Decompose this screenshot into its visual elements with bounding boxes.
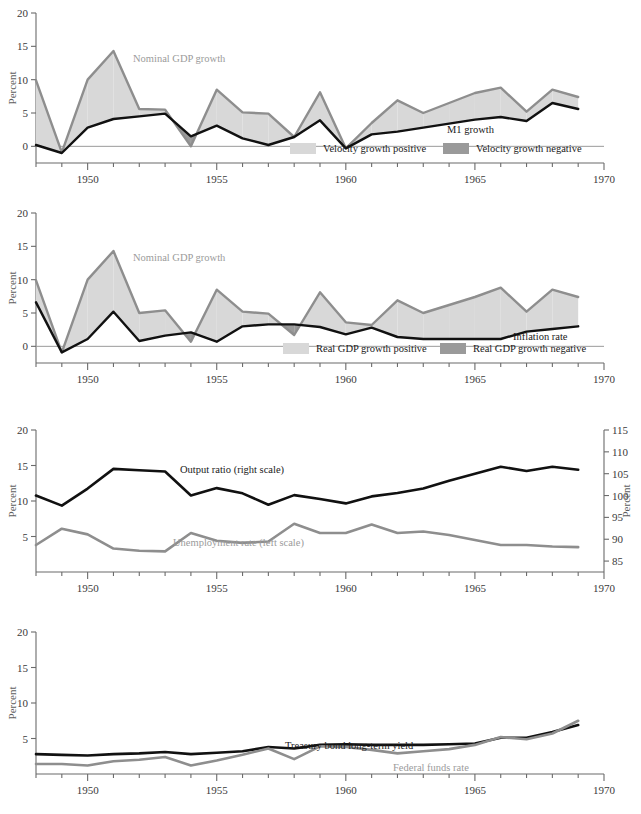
x-tick-label: 1965 <box>464 373 487 385</box>
y-tick-label-left: 5 <box>23 531 29 543</box>
panel-interest-rates: 5101520Percent19501955196019651970Treasu… <box>0 608 641 814</box>
x-tick-label: 1960 <box>335 373 358 385</box>
y-tick-label-left: 10 <box>17 74 29 86</box>
series-label-lower: M1 growth <box>447 124 495 135</box>
y-tick-label-left: 10 <box>17 697 29 709</box>
y-tick-label-left: 0 <box>23 340 29 352</box>
legend-swatch <box>290 143 316 154</box>
legend-swatch <box>440 343 466 354</box>
series-line-output-ratio-right-scale <box>36 467 578 506</box>
x-tick-label: 1965 <box>464 784 487 796</box>
y-tick-label-right: 90 <box>612 533 624 545</box>
x-tick-label: 1970 <box>593 784 616 796</box>
legend-swatch <box>443 143 469 154</box>
x-tick-label: 1950 <box>77 373 100 385</box>
legend-label: Velocity growth negative <box>476 143 582 154</box>
band-positive <box>397 100 423 131</box>
series-label-lower: Inflation rate <box>513 331 568 342</box>
series-label-federal-funds-rate: Federal funds rate <box>393 762 469 773</box>
x-tick-label: 1955 <box>206 173 229 185</box>
band-positive <box>88 51 114 128</box>
legend-label: Velocity growth positive <box>323 143 427 154</box>
x-tick-label: 1970 <box>593 173 616 185</box>
legend: Velocity growth positiveVelocity growth … <box>290 143 582 154</box>
x-tick-label: 1955 <box>206 784 229 796</box>
panel-inflation-rate: 05101520Percent19501955196019651970Nomin… <box>0 197 641 400</box>
y-tick-label-left: 5 <box>23 107 29 119</box>
y-tick-label-left: 15 <box>17 460 29 472</box>
x-tick-label: 1965 <box>464 173 487 185</box>
y-tick-label-left: 0 <box>23 140 29 152</box>
y-tick-label-left: 5 <box>23 733 29 745</box>
y-tick-label-left: 5 <box>23 307 29 319</box>
x-tick-label: 1950 <box>77 582 100 594</box>
x-tick-label: 1955 <box>206 373 229 385</box>
y-tick-label-left: 20 <box>17 424 29 436</box>
x-tick-label: 1960 <box>335 582 358 594</box>
legend: Real GDP growth positiveReal GDP growth … <box>283 343 586 354</box>
area-band-group <box>36 51 578 153</box>
series-line-unemployment-rate-left-scale <box>36 524 578 552</box>
panel-output-ratio: 5101520Percent859095100105110115Percent1… <box>0 400 641 608</box>
y-tick-label-left: 20 <box>17 626 29 638</box>
y-tick-label-left: 15 <box>17 40 29 52</box>
band-positive <box>372 100 398 134</box>
y-tick-label-right: 115 <box>612 424 629 436</box>
y-axis-title-left: Percent <box>6 272 18 305</box>
panel-velocity-growth: 05101520Percent19501955196019651970Nomin… <box>0 0 641 197</box>
legend-label: Real GDP growth positive <box>316 343 427 354</box>
y-tick-label-left: 15 <box>17 662 29 674</box>
x-tick-label: 1960 <box>335 784 358 796</box>
area-band-group <box>36 251 578 352</box>
legend-label: Real GDP growth negative <box>473 343 586 354</box>
series-label-treasury-bond-long-term-yield: Treasury bond long-term yield <box>285 740 414 751</box>
y-tick-label-left: 10 <box>17 274 29 286</box>
legend-swatch <box>283 343 309 354</box>
y-tick-label-left: 20 <box>17 7 29 19</box>
x-tick-label: 1965 <box>464 582 487 594</box>
y-axis-title-right: Percent <box>620 485 632 518</box>
x-tick-label: 1950 <box>77 784 100 796</box>
y-axis-title-left: Percent <box>6 72 18 105</box>
y-tick-label-left: 15 <box>17 240 29 252</box>
x-tick-label: 1970 <box>593 373 616 385</box>
series-label-nominal-gdp: Nominal GDP growth <box>133 252 226 263</box>
y-tick-label-right: 110 <box>612 446 629 458</box>
y-axis-title-left: Percent <box>6 687 18 720</box>
y-tick-label-left: 10 <box>17 495 29 507</box>
series-label-output-ratio-right-scale: Output ratio (right scale) <box>180 464 285 476</box>
band-positive <box>527 290 553 332</box>
y-axis-title-left: Percent <box>6 485 18 518</box>
y-tick-label-right: 105 <box>612 468 629 480</box>
x-tick-label: 1955 <box>206 582 229 594</box>
y-tick-label-left: 20 <box>17 207 29 219</box>
x-tick-label: 1960 <box>335 173 358 185</box>
series-label-unemployment-rate-left-scale: Unemployment rate (left scale) <box>173 537 304 549</box>
x-tick-label: 1950 <box>77 173 100 185</box>
y-tick-label-right: 85 <box>612 555 624 567</box>
x-tick-label: 1970 <box>593 582 616 594</box>
series-label-nominal-gdp: Nominal GDP growth <box>133 53 226 64</box>
